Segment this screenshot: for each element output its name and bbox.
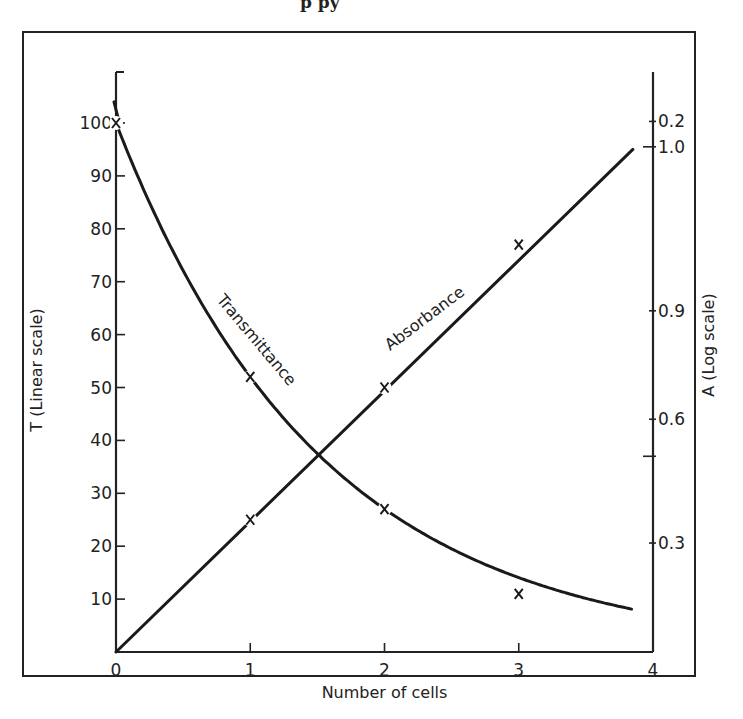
x-tick-label: 4 [648, 660, 659, 680]
outer-frame [23, 32, 695, 676]
right-tick-label: 0.2 [658, 111, 685, 131]
x-tick-label: 1 [245, 660, 256, 680]
right-axis-title: A (Log scale) [699, 293, 718, 396]
left-tick-label: 20 [90, 536, 112, 556]
right-tick-label: 1.0 [658, 137, 685, 157]
left-tick-label: 30 [90, 483, 112, 503]
x-tick-label: 2 [379, 660, 390, 680]
right-tick-label: 0.6 [658, 409, 685, 429]
left-tick-label: 60 [90, 325, 112, 345]
left-tick-label: 70 [90, 272, 112, 292]
left-axis-title: T (Linear scale) [27, 308, 46, 432]
left-tick-label: 50 [90, 378, 112, 398]
x-tick-label: 0 [111, 660, 122, 680]
left-tick-label: 80 [90, 219, 112, 239]
chart: p py 102030405060708090100012340.30.60.9… [0, 0, 743, 719]
left-tick-label: 40 [90, 430, 112, 450]
left-tick-label: 90 [90, 166, 112, 186]
transmittance-curve [114, 102, 632, 609]
right-tick-label: 0.9 [658, 301, 685, 321]
right-tick-label: 0.3 [658, 533, 685, 553]
x-axis-title: Number of cells [322, 683, 448, 702]
absorbance-line [116, 149, 633, 652]
left-tick-label: 10 [90, 589, 112, 609]
x-tick-label: 3 [513, 660, 524, 680]
plot-area: 102030405060708090100012340.30.60.91.00.… [27, 72, 718, 702]
caption-fragment: p py [300, 0, 341, 12]
left-tick-label: 100 [80, 113, 112, 133]
absorbance-label: Absorbance [381, 282, 468, 354]
